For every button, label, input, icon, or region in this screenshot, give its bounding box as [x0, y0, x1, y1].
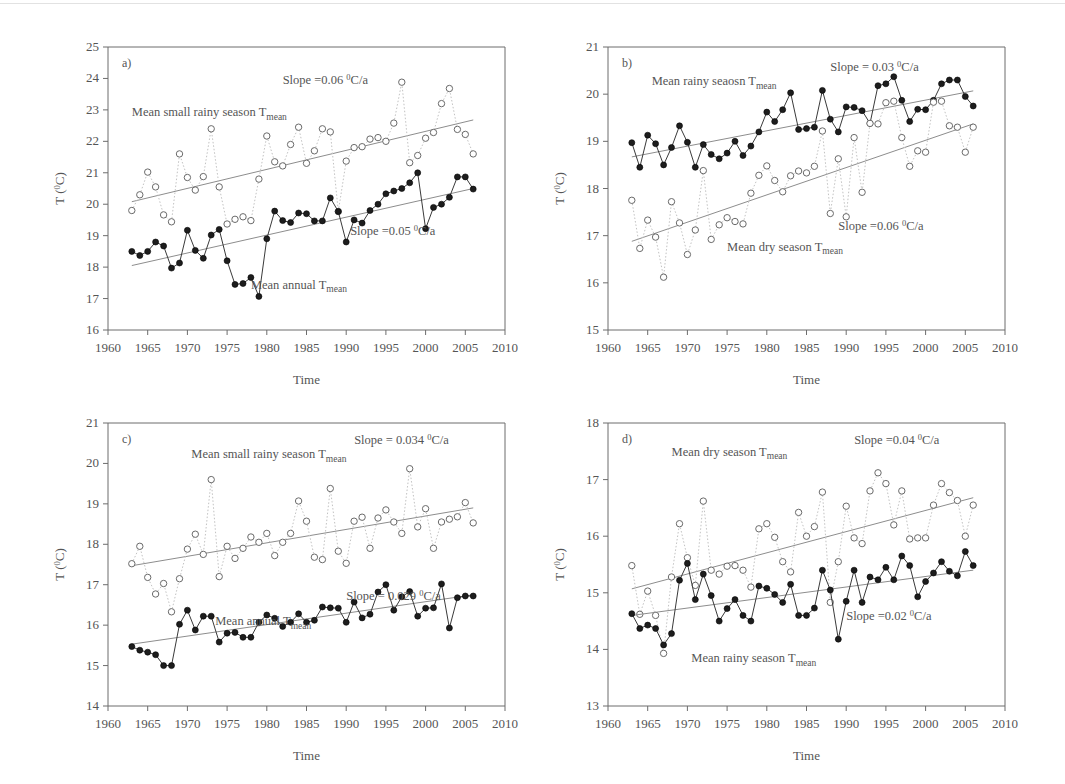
data-point-marker	[152, 184, 158, 190]
data-point-marker	[684, 251, 690, 257]
data-point-marker	[454, 126, 460, 132]
data-point-marker	[177, 260, 183, 266]
annotation-label: Mean small rainy season Tmean	[191, 447, 346, 464]
data-point-marker	[756, 583, 762, 589]
data-point-marker	[439, 581, 445, 587]
data-point-marker	[446, 194, 452, 200]
data-point-marker	[295, 498, 301, 504]
data-point-marker	[962, 549, 968, 555]
y-axis-ticks: 1415161718192021	[86, 415, 108, 713]
data-point-marker	[811, 523, 817, 529]
data-point-marker	[200, 173, 206, 179]
panel-letter: b)	[622, 56, 632, 70]
data-point-marker	[351, 518, 357, 524]
y-tick-label: 18	[86, 259, 99, 274]
data-point-marker	[692, 227, 698, 233]
data-point-marker	[740, 221, 746, 227]
x-tick-label: 1970	[674, 716, 700, 731]
data-point-marker	[327, 195, 333, 201]
data-point-marker	[899, 134, 905, 140]
data-point-marker	[224, 221, 230, 227]
y-tick-label: 15	[86, 658, 99, 673]
data-point-marker	[764, 521, 770, 527]
data-point-marker	[787, 173, 793, 179]
data-point-marker	[962, 94, 968, 100]
data-point-marker	[311, 617, 317, 623]
data-point-marker	[708, 593, 714, 599]
data-point-marker	[811, 124, 817, 130]
data-point-marker	[264, 236, 270, 242]
y-tick-label: 15	[586, 585, 599, 600]
data-point-marker	[200, 551, 206, 557]
data-point-marker	[922, 535, 928, 541]
data-point-marker	[851, 104, 857, 110]
data-point-marker	[296, 210, 302, 216]
data-point-marker	[248, 534, 254, 540]
data-point-marker	[661, 642, 667, 648]
y-tick-label: 21	[86, 165, 99, 180]
data-point-marker	[827, 210, 833, 216]
data-point-marker	[256, 176, 262, 182]
data-point-marker	[764, 109, 770, 115]
data-point-marker	[208, 476, 214, 482]
chart-panel-b: 1516171819202119601965197019751980198519…	[500, 16, 1033, 392]
data-point-marker	[224, 630, 230, 636]
data-point-marker	[780, 189, 786, 195]
data-point-marker	[962, 533, 968, 539]
trend-line	[632, 498, 973, 589]
data-point-marker	[756, 172, 762, 178]
data-point-marker	[660, 650, 666, 656]
data-point-marker	[692, 164, 698, 170]
y-tick-label: 19	[586, 133, 599, 148]
x-tick-label: 2005	[952, 340, 978, 355]
y-tick-label: 24	[86, 70, 100, 85]
data-point-marker	[454, 174, 460, 180]
data-point-marker	[129, 207, 135, 213]
y-tick-label: 16	[86, 322, 100, 337]
data-point-marker	[669, 631, 675, 637]
data-point-marker	[280, 539, 286, 545]
data-point-marker	[438, 100, 444, 106]
data-point-marker	[160, 212, 166, 218]
data-point-marker	[652, 234, 658, 240]
data-point-marker	[772, 592, 778, 598]
data-point-marker	[177, 621, 183, 627]
data-point-marker	[700, 142, 706, 148]
data-point-marker	[780, 599, 786, 605]
data-point-marker	[415, 170, 421, 176]
y-tick-label: 17	[86, 577, 100, 592]
data-series-1	[129, 79, 477, 227]
data-point-marker	[367, 136, 373, 142]
data-point-marker	[208, 232, 214, 238]
data-point-marker	[287, 141, 293, 147]
data-point-marker	[145, 574, 151, 580]
data-point-marker	[216, 184, 222, 190]
data-point-marker	[383, 507, 389, 513]
x-axis-title: Time	[793, 748, 820, 763]
data-point-marker	[923, 107, 929, 113]
data-point-marker	[875, 577, 881, 583]
data-point-marker	[288, 220, 294, 226]
data-point-marker	[232, 216, 238, 222]
data-point-marker	[272, 208, 278, 214]
data-point-marker	[153, 239, 159, 245]
data-point-marker	[462, 499, 468, 505]
y-tick-label: 14	[86, 698, 100, 713]
data-point-marker	[684, 555, 690, 561]
data-point-marker	[462, 593, 468, 599]
data-point-marker	[343, 560, 349, 566]
data-point-marker	[891, 522, 897, 528]
data-point-marker	[748, 584, 754, 590]
x-tick-label: 1990	[833, 340, 859, 355]
data-point-marker	[875, 83, 881, 89]
data-point-marker	[153, 652, 159, 658]
data-point-marker	[367, 208, 373, 214]
y-tick-label: 16	[86, 617, 100, 632]
data-point-marker	[391, 120, 397, 126]
series-line	[632, 473, 973, 654]
data-point-marker	[788, 581, 794, 587]
data-point-marker	[772, 534, 778, 540]
data-point-marker	[756, 526, 762, 532]
x-tick-label: 1960	[595, 340, 621, 355]
data-point-marker	[899, 488, 905, 494]
